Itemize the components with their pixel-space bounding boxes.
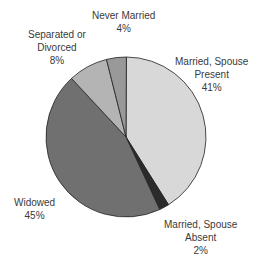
label-percent: 2% bbox=[164, 244, 237, 257]
label-married-present: Married, Spouse Present 41% bbox=[175, 55, 248, 94]
label-percent: 4% bbox=[92, 22, 155, 35]
label-line: Separated or bbox=[28, 28, 86, 41]
label-widowed: Widowed 45% bbox=[14, 196, 55, 222]
label-never-married: Never Married 4% bbox=[92, 9, 155, 35]
label-line: Married, Spouse bbox=[164, 218, 237, 231]
label-separated-divorced: Separated or Divorced 8% bbox=[28, 28, 86, 67]
label-line: Married, Spouse bbox=[175, 55, 248, 68]
label-percent: 8% bbox=[28, 54, 86, 67]
pie-chart: Married, Spouse Present 41% Married, Spo… bbox=[0, 0, 266, 274]
label-percent: 45% bbox=[14, 209, 55, 222]
label-line: Absent bbox=[164, 231, 237, 244]
label-line: Divorced bbox=[28, 41, 86, 54]
label-married-absent: Married, Spouse Absent 2% bbox=[164, 218, 237, 257]
label-line: Present bbox=[175, 68, 248, 81]
label-line: Never Married bbox=[92, 9, 155, 22]
label-line: Widowed bbox=[14, 196, 55, 209]
label-percent: 41% bbox=[175, 81, 248, 94]
